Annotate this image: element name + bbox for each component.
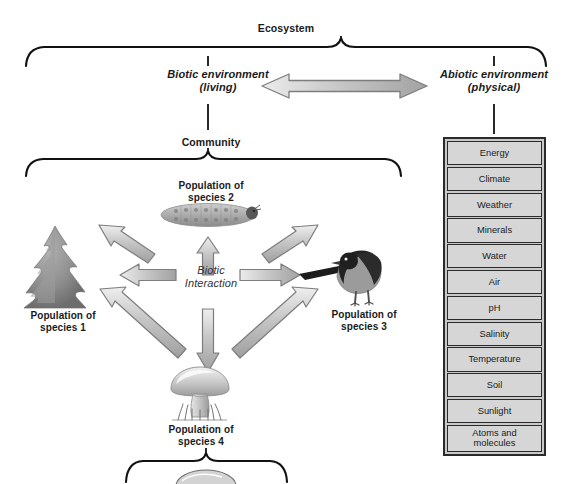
community-label: Community bbox=[141, 136, 281, 149]
abiotic-item-sunlight[interactable]: Sunlight bbox=[447, 399, 542, 423]
abiotic-item-soil[interactable]: Soil bbox=[447, 373, 542, 397]
abiotic-item-air[interactable]: Air bbox=[447, 270, 542, 294]
arrow-diagonal-upper-right bbox=[262, 225, 318, 263]
abiotic-item-atoms-and-molecules[interactable]: Atoms and molecules bbox=[447, 425, 542, 452]
abiotic-item-salinity[interactable]: Salinity bbox=[447, 322, 542, 346]
abiotic-item-temperature[interactable]: Temperature bbox=[447, 347, 542, 371]
arrow-diagonal-upper-left bbox=[99, 225, 155, 263]
abiotic-factors-list: Energy Climate Weather Minerals Water Ai… bbox=[443, 137, 546, 456]
population-species-2-label: Population of species 2 bbox=[136, 180, 286, 204]
biotic-interaction-label: Biotic Interaction bbox=[146, 264, 276, 291]
population-species-4-label: Population of species 4 bbox=[126, 424, 276, 448]
ecosystem-brace bbox=[26, 38, 546, 66]
abiotic-item-water[interactable]: Water bbox=[447, 244, 542, 268]
ecosystem-drop-lines bbox=[208, 56, 494, 66]
lower-brace bbox=[126, 448, 287, 484]
population-species-1-label: Population of species 1 bbox=[0, 310, 138, 334]
abiotic-item-energy[interactable]: Energy bbox=[447, 141, 542, 165]
ecosystem-diagram: Ecosystem Biotic environment (living) Ab… bbox=[0, 0, 571, 484]
abiotic-item-minerals[interactable]: Minerals bbox=[447, 218, 542, 242]
abiotic-environment-label: Abiotic environment (physical) bbox=[409, 68, 571, 95]
abiotic-item-climate[interactable]: Climate bbox=[447, 167, 542, 191]
biotic-environment-label: Biotic environment (living) bbox=[128, 68, 308, 95]
ecosystem-label: Ecosystem bbox=[226, 22, 346, 35]
arrow-down-to-species-4 bbox=[197, 309, 219, 372]
abiotic-item-weather[interactable]: Weather bbox=[447, 193, 542, 217]
mushroom-icon bbox=[171, 367, 229, 420]
community-brace bbox=[26, 148, 401, 176]
population-species-3-label: Population of species 3 bbox=[289, 309, 439, 333]
abiotic-item-ph[interactable]: pH bbox=[447, 296, 542, 320]
caterpillar-icon bbox=[161, 204, 261, 227]
conifer-tree-icon bbox=[24, 226, 86, 308]
bird-icon bbox=[299, 250, 382, 306]
